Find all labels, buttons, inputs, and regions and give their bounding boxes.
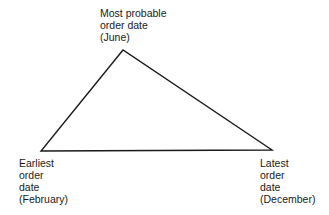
label-line: date <box>19 181 68 193</box>
left-label-earliest: Earliest order date (February) <box>19 157 68 205</box>
label-line: (February) <box>19 193 68 205</box>
label-line: order <box>260 169 315 181</box>
label-line: Earliest <box>19 157 68 169</box>
triangle-shape <box>41 50 272 151</box>
right-label-latest: Latest order date (December) <box>260 157 315 205</box>
label-line: (June) <box>100 31 167 43</box>
label-line: order date <box>100 19 167 31</box>
label-line: date <box>260 181 315 193</box>
label-line: (December) <box>260 193 315 205</box>
label-line: Latest <box>260 157 315 169</box>
apex-label-most-probable: Most probable order date (June) <box>100 7 167 43</box>
label-line: order <box>19 169 68 181</box>
label-line: Most probable <box>100 7 167 19</box>
